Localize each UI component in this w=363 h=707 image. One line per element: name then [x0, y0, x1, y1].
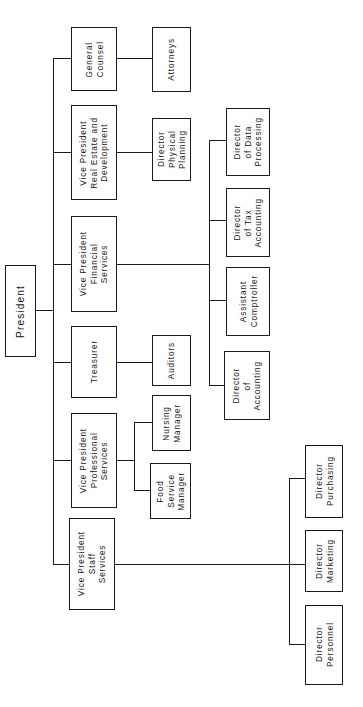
connector-prof-food	[134, 490, 150, 491]
org-node-label-auditors: Auditors	[166, 342, 177, 379]
connector-branch-prof	[53, 460, 71, 461]
org-node-label-dir-physical: Director Physical Planning	[156, 130, 188, 169]
org-node-label-general-counsel: General Counsel	[84, 41, 105, 77]
org-node-label-dir-accounting: Director of Accounting	[231, 361, 263, 411]
connector-fin-tax	[209, 220, 226, 221]
connector-branch-staff	[53, 564, 69, 565]
org-node-vp-real-estate[interactable]: Vice President Real Estate and Developme…	[71, 105, 117, 200]
org-node-food-service[interactable]: Food Service Manager	[150, 463, 191, 519]
org-node-label-vp-real-estate: Vice President Real Estate and Developme…	[78, 117, 110, 189]
connector-staff-stub	[115, 564, 290, 565]
connector-branch-counsel	[53, 58, 71, 59]
org-node-label-asst-comptroller: Assistant Comptroller	[238, 275, 259, 327]
org-node-dir-purchasing[interactable]: Director Purchasing	[305, 445, 343, 518]
connector-fin-comptroller	[209, 300, 226, 301]
connector-fin-stub	[117, 264, 209, 265]
org-node-label-attorneys: Attorneys	[166, 38, 177, 81]
connector-branch-realestate	[53, 152, 71, 153]
org-node-dir-data[interactable]: Director of Data Processing	[226, 108, 270, 176]
org-node-label-nursing-manager: Nursing Manager	[161, 404, 182, 443]
org-node-label-vp-professional: Vice President Professional Services	[78, 428, 110, 493]
org-node-auditors[interactable]: Auditors	[152, 335, 191, 386]
org-node-label-vp-financial: Vice President Financial Services	[78, 231, 110, 296]
org-node-label-dir-data: Director of Data Processing	[232, 117, 264, 167]
org-node-label-president: President	[15, 285, 27, 338]
org-node-treasurer[interactable]: Treasurer	[71, 326, 117, 398]
connector-fin-bus	[209, 140, 210, 386]
org-node-dir-physical[interactable]: Director Physical Planning	[152, 118, 191, 181]
connector-realestate-phys	[117, 152, 152, 153]
org-node-label-vp-staff: Vice President Staff Services	[76, 531, 108, 596]
org-node-label-food-service: Food Service Manager	[155, 472, 187, 511]
connector-branch-financial	[53, 264, 71, 265]
connector-counsel-attorneys	[117, 58, 152, 59]
connector-fin-data	[209, 140, 226, 141]
org-chart-canvas: PresidentGeneral CounselVice President R…	[0, 0, 363, 707]
org-node-dir-tax[interactable]: Director of Tax Accounting	[226, 188, 270, 257]
org-node-label-dir-tax: Director of Tax Accounting	[232, 198, 264, 248]
org-node-label-treasurer: Treasurer	[89, 340, 100, 383]
org-node-dir-personnel[interactable]: Director Personnel	[305, 605, 343, 685]
connector-staff-bus	[289, 478, 290, 645]
connector-branch-treasurer	[53, 362, 71, 363]
org-node-asst-comptroller[interactable]: Assistant Comptroller	[226, 267, 270, 336]
connector-pres-stub	[36, 310, 53, 311]
connector-pres-bus	[53, 58, 54, 565]
connector-fin-accounting	[209, 385, 224, 386]
org-node-label-dir-purchasing: Director Purchasing	[314, 456, 335, 506]
org-node-vp-professional[interactable]: Vice President Professional Services	[71, 413, 117, 508]
org-node-president[interactable]: President	[5, 265, 36, 357]
connector-staff-marketing	[289, 564, 305, 565]
org-node-label-dir-personnel: Director Personnel	[314, 622, 335, 667]
org-node-vp-financial[interactable]: Vice President Financial Services	[71, 216, 117, 312]
org-node-dir-accounting[interactable]: Director of Accounting	[224, 351, 270, 420]
connector-prof-stub	[117, 460, 135, 461]
connector-treasurer-aud	[117, 362, 152, 363]
org-node-label-dir-marketing: Director Marketing	[314, 539, 335, 583]
org-node-dir-marketing[interactable]: Director Marketing	[305, 530, 343, 592]
connector-staff-purchasing	[289, 478, 305, 479]
connector-prof-nursing	[134, 422, 152, 423]
org-node-general-counsel[interactable]: General Counsel	[71, 27, 117, 91]
connector-staff-personnel	[289, 644, 305, 645]
org-node-nursing-manager[interactable]: Nursing Manager	[152, 395, 191, 451]
connector-prof-bus	[134, 422, 135, 491]
org-node-vp-staff[interactable]: Vice President Staff Services	[69, 518, 115, 610]
org-node-attorneys[interactable]: Attorneys	[152, 27, 191, 92]
